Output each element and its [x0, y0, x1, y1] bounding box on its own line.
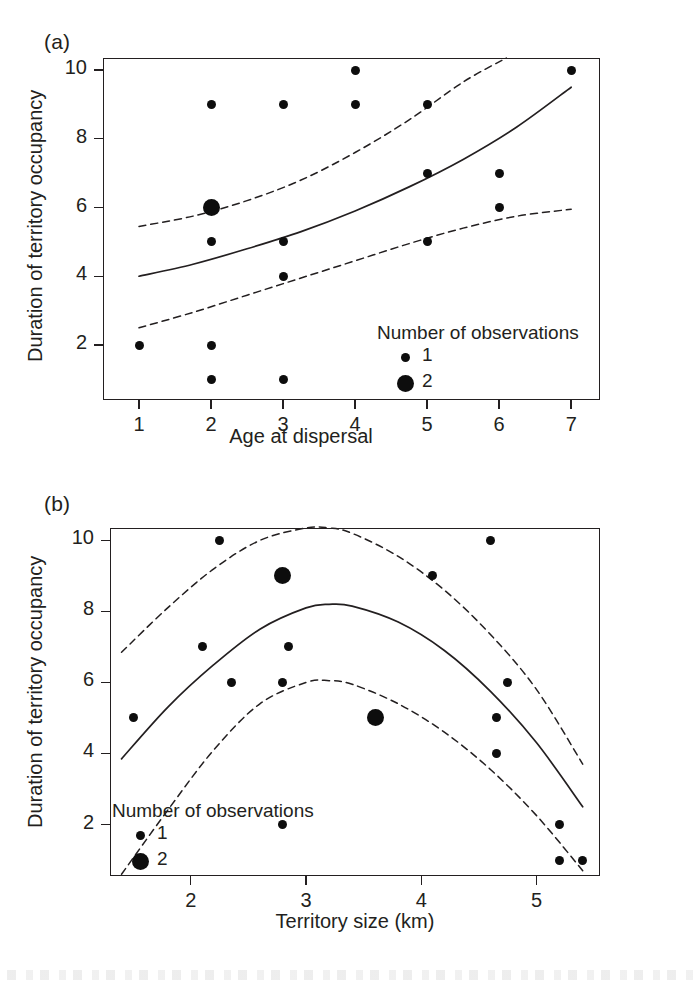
x-tick-mark	[210, 400, 211, 409]
data-point	[279, 375, 288, 384]
legend-small-dot-icon	[136, 831, 145, 840]
data-point	[555, 856, 564, 865]
x-tick-mark	[421, 876, 422, 885]
data-point	[207, 237, 216, 246]
y-tick-label: 2	[48, 811, 94, 834]
y-tick-mark	[101, 682, 110, 683]
panel-b-legend-row-2: 2	[112, 848, 314, 874]
y-tick-mark	[94, 207, 103, 208]
data-point	[578, 856, 587, 865]
x-tick-label: 4	[396, 889, 446, 912]
data-point	[207, 375, 216, 384]
x-tick-label: 3	[281, 889, 331, 912]
data-point	[279, 237, 288, 246]
data-point	[495, 203, 504, 212]
y-tick-label: 6	[41, 194, 87, 217]
panel-a-legend-row-1: 1	[377, 344, 579, 370]
curve-fitted-curve	[139, 87, 571, 276]
data-point	[492, 749, 501, 758]
y-tick-label: 8	[48, 597, 94, 620]
data-point	[207, 100, 216, 109]
figure-container: (a) Duration of territory occupancy 2468…	[0, 0, 698, 986]
y-tick-label: 4	[48, 739, 94, 762]
curve-upper-confidence-limit	[122, 527, 583, 764]
y-tick-label: 2	[41, 331, 87, 354]
data-point	[423, 169, 432, 178]
data-point	[351, 100, 360, 109]
x-tick-label: 1	[114, 413, 164, 436]
data-point	[486, 536, 495, 545]
panel-b: (b) Duration of territory occupancy 2468…	[0, 470, 698, 940]
panel-b-legend-value-1: 1	[157, 822, 168, 844]
x-tick-label: 6	[474, 413, 524, 436]
curve-lower-confidence-limit	[139, 209, 571, 328]
panel-b-legend-row-1: 1	[112, 822, 314, 848]
y-tick-mark	[94, 344, 103, 345]
y-tick-mark	[94, 276, 103, 277]
x-tick-label: 2	[166, 889, 216, 912]
curve-upper-confidence-limit	[139, 58, 506, 226]
legend-large-dot-icon	[397, 375, 414, 392]
data-point	[423, 100, 432, 109]
y-tick-mark	[101, 753, 110, 754]
y-tick-label: 6	[48, 668, 94, 691]
y-tick-mark	[101, 540, 110, 541]
y-tick-label: 8	[41, 125, 87, 148]
panel-b-legend-title: Number of observations	[112, 800, 314, 822]
x-tick-mark	[426, 400, 427, 409]
y-tick-label: 10	[41, 56, 87, 79]
panel-a-legend: Number of observations 1 2	[377, 322, 579, 396]
data-point	[279, 272, 288, 281]
legend-large-dot-icon	[132, 853, 149, 870]
panel-a-legend-value-2: 2	[422, 370, 433, 392]
data-point	[203, 199, 220, 216]
y-tick-label: 4	[41, 262, 87, 285]
panel-a-curves	[0, 0, 698, 470]
x-tick-label: 7	[546, 413, 596, 436]
panel-b-legend-value-2: 2	[157, 848, 168, 870]
data-point	[215, 536, 224, 545]
data-point	[135, 341, 144, 350]
panel-a-legend-value-1: 1	[422, 344, 433, 366]
y-tick-mark	[101, 824, 110, 825]
x-tick-mark	[354, 400, 355, 409]
x-tick-mark	[498, 400, 499, 409]
legend-small-dot-icon	[401, 353, 410, 362]
panel-b-legend: Number of observations 1 2	[112, 800, 314, 874]
data-point	[207, 341, 216, 350]
x-tick-mark	[536, 876, 537, 885]
y-tick-label: 10	[48, 526, 94, 549]
data-point	[495, 169, 504, 178]
data-point	[567, 66, 576, 75]
y-tick-mark	[101, 611, 110, 612]
data-point	[279, 100, 288, 109]
data-point	[227, 678, 236, 687]
panel-b-x-axis-label: Territory size (km)	[235, 910, 475, 933]
curve-fitted-curve	[122, 604, 583, 807]
data-point	[423, 237, 432, 246]
x-tick-mark	[138, 400, 139, 409]
panel-a-legend-row-2: 2	[377, 370, 579, 396]
y-tick-mark	[94, 138, 103, 139]
x-tick-mark	[190, 876, 191, 885]
panel-a-legend-title: Number of observations	[377, 322, 579, 344]
panel-a-x-axis-label: Age at dispersal	[181, 425, 421, 448]
x-tick-mark	[282, 400, 283, 409]
panel-a: (a) Duration of territory occupancy 2468…	[0, 0, 698, 470]
x-tick-mark	[570, 400, 571, 409]
y-tick-mark	[94, 69, 103, 70]
scan-artifact	[0, 970, 698, 980]
data-point	[351, 66, 360, 75]
x-tick-mark	[305, 876, 306, 885]
x-tick-label: 5	[512, 889, 562, 912]
